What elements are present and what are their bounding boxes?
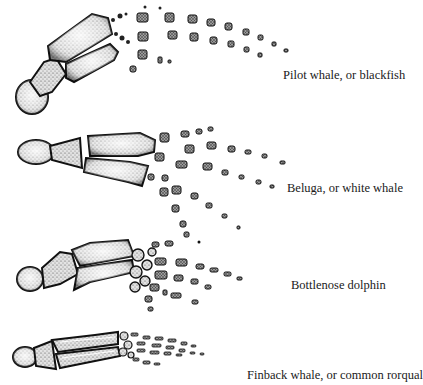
finback-whale-flipper-drawing xyxy=(13,332,204,369)
bottlenose-dolphin-flipper-drawing xyxy=(17,240,242,311)
label-beluga: Beluga, or white whale xyxy=(287,182,403,195)
pilot-whale-flipper-drawing xyxy=(16,6,288,115)
label-finback-whale: Finback whale, or common rorqual xyxy=(247,369,423,382)
beluga-flipper-drawing xyxy=(18,127,285,237)
label-pilot-whale: Pilot whale, or blackfish xyxy=(283,69,405,82)
label-bottlenose-dolphin: Bottlenose dolphin xyxy=(291,279,386,292)
